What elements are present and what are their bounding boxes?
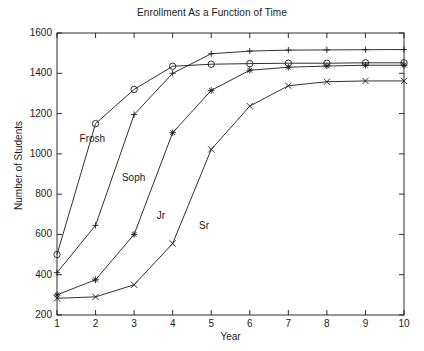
series-frosh: [54, 60, 407, 258]
series-sr: [54, 78, 407, 302]
data-series-group: [54, 46, 408, 301]
chart-figure: Enrollment As a Function of Time Number …: [0, 0, 424, 351]
axes-frame: [57, 33, 404, 315]
series-line: [57, 81, 404, 298]
series-jr: [54, 62, 408, 298]
series-line: [57, 63, 404, 255]
axis-ticks: [57, 33, 404, 315]
axes-box: [57, 33, 404, 315]
plot-area: [0, 0, 424, 351]
series-line: [57, 65, 404, 295]
series-line: [57, 50, 404, 273]
